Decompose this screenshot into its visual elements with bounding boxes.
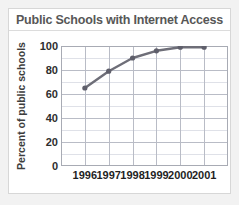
chart-screenshot: Public Schools with Internet Access Perc… <box>0 0 239 205</box>
y-axis-tick-label: 0 <box>30 161 58 172</box>
x-axis-tick-label: 2001 <box>192 169 216 182</box>
y-axis-title: Percent of public schools <box>14 46 28 166</box>
data-point-marker <box>130 55 135 60</box>
line-chart-svg <box>61 46 228 166</box>
y-axis-tick-label: 20 <box>30 137 58 148</box>
x-axis-tick-label: 2000 <box>168 169 192 182</box>
page-title: Public Schools with Internet Access <box>16 13 223 27</box>
plot-area <box>61 46 228 166</box>
data-point-marker <box>82 85 87 90</box>
x-axis-tick-labels: 199619971998199920002001 <box>61 169 228 185</box>
x-axis-tick-label: 1996 <box>73 169 97 182</box>
y-axis-tick-label: 100 <box>30 41 58 52</box>
y-axis-tick-label: 60 <box>30 89 58 100</box>
data-point-marker <box>154 48 159 53</box>
y-axis-tick-labels: 100806040200 <box>30 40 58 172</box>
chart-title-band: Public Schools with Internet Access <box>9 9 230 31</box>
y-axis-tick-label: 40 <box>30 113 58 124</box>
x-axis-tick-label: 1998 <box>120 169 144 182</box>
x-axis-tick-label: 1999 <box>144 169 168 182</box>
y-axis-tick-label: 80 <box>30 65 58 76</box>
data-point-marker <box>106 69 111 74</box>
x-axis-tick-label: 1997 <box>96 169 120 182</box>
